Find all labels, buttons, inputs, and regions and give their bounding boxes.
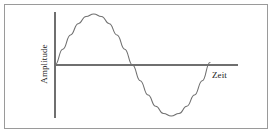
plot-canvas	[0, 0, 273, 135]
sine-wave-figure: Amplitude Zeit	[0, 0, 273, 135]
x-axis-label-text: Zeit	[212, 70, 227, 80]
x-axis-label: Zeit	[212, 70, 227, 80]
